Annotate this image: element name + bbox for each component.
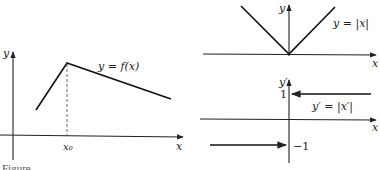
deriv-curve-label: y′ = |x′|: [311, 100, 353, 114]
abs-x-axis-label: x: [372, 57, 379, 70]
tick-label-1: 1: [280, 88, 287, 101]
left-x-axis-label: x: [176, 140, 183, 153]
figure-caption: Figure: [2, 162, 31, 170]
right-bottom-panel: y′ 1 y′ = |x′| x −1: [200, 76, 379, 163]
left-x-axis: [0, 135, 183, 137]
abs-curve: [241, 6, 335, 54]
figure-canvas: y y = f(x) x₀ x Figure y y = |x| x y′ 1 …: [0, 0, 380, 170]
x0-label: x₀: [63, 141, 73, 152]
deriv-x-axis-label: x: [372, 121, 379, 134]
right-top-panel: y y = |x| x: [203, 2, 379, 70]
abs-curve-label: y = |x|: [332, 17, 369, 31]
left-panel: y y = f(x) x₀ x Figure: [0, 47, 183, 170]
left-curve-label: y = f(x): [97, 60, 139, 73]
deriv-x-axis: [200, 119, 376, 120]
tick-label-neg-1: −1: [293, 140, 309, 153]
left-y-axis-label: y: [2, 47, 10, 60]
abs-y-axis-label: y: [278, 2, 286, 15]
